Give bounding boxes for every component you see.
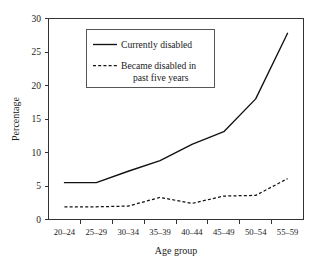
- chart-container: 0 5 10 15 20 25 30 20–24 25–29 30–34 35–…: [0, 0, 317, 267]
- x-tick-label-20-24: 20–24: [54, 227, 76, 237]
- x-axis-tick-labels: 20–24 25–29 30–34 35–39 40–44 45–49 50–5…: [54, 227, 299, 237]
- x-tick-label-30-34: 30–34: [117, 227, 139, 237]
- y-axis-title: Percentage: [10, 97, 21, 141]
- x-tick-label-40-44: 40–44: [181, 227, 203, 237]
- series-became-disabled-past-five-years: [64, 179, 287, 207]
- y-tick-label-10: 10: [32, 148, 42, 158]
- legend-label-became-disabled-line1: Became disabled in: [121, 60, 196, 71]
- x-tick-label-45-49: 45–49: [213, 227, 234, 237]
- x-axis-title: Age group: [155, 245, 198, 256]
- legend-label-became-disabled-line2: past five years: [133, 72, 189, 83]
- x-tick-label-35-39: 35–39: [149, 227, 170, 237]
- x-tick-label-25-29: 25–29: [86, 227, 107, 237]
- y-tick-label-5: 5: [36, 181, 41, 191]
- y-axis-tick-labels: 0 5 10 15 20 25 30: [32, 14, 42, 225]
- line-chart: 0 5 10 15 20 25 30 20–24 25–29 30–34 35–…: [0, 0, 317, 267]
- y-tick-label-15: 15: [32, 114, 42, 124]
- x-tick-label-50-54: 50–54: [245, 227, 267, 237]
- y-tick-label-0: 0: [36, 215, 41, 225]
- x-tick-label-55-59: 55–59: [277, 227, 298, 237]
- legend-label-currently-disabled: Currently disabled: [121, 39, 192, 50]
- y-tick-label-20: 20: [32, 81, 42, 91]
- y-tick-label-30: 30: [32, 14, 42, 24]
- y-tick-label-25: 25: [32, 47, 42, 57]
- y-axis-ticks: [45, 19, 49, 220]
- x-axis-ticks: [80, 220, 271, 224]
- legend: Currently disabled Became disabled in pa…: [87, 30, 215, 88]
